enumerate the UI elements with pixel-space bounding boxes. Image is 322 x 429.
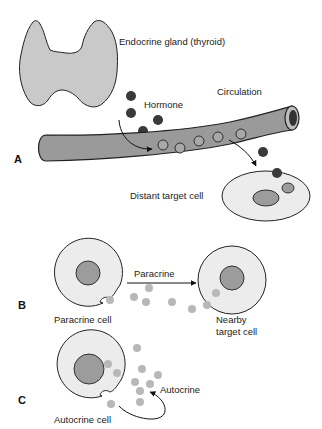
cell-signaling-diagram: Endocrine gland (thyroid) Hormone Circul… [0, 0, 322, 429]
paracrine-arrow-label: Paracrine [134, 268, 175, 279]
vessel-lumen [289, 110, 297, 126]
panel-a: Endocrine gland (thyroid) Hormone Circul… [14, 20, 310, 221]
panel-b: Paracrine B Paracrine cell Nearby target… [18, 238, 266, 337]
bound-hormone-dot [272, 168, 282, 178]
gland-label: Endocrine gland (thyroid) [119, 36, 225, 47]
circulating-hormone [158, 140, 168, 150]
circulating-hormone [194, 136, 204, 146]
thyroid-gland-shape [19, 20, 117, 106]
nearby-target-label-2: target cell [216, 326, 257, 337]
nearby-target-label-1: Nearby [216, 314, 247, 325]
hormone-label: Hormone [144, 99, 183, 110]
receptor-organelle [282, 183, 294, 193]
hormone-dot [126, 108, 136, 118]
autocrine-nucleus [74, 354, 104, 384]
circulating-hormone [175, 143, 185, 153]
autocrine-cell-label: Autocrine cell [54, 414, 111, 425]
hormone-dot [258, 147, 268, 157]
nearby-target-nucleus [220, 266, 244, 290]
circulating-hormone [236, 129, 246, 139]
panel-label-b: B [18, 299, 26, 311]
paracrine-cell-label: Paracrine cell [54, 314, 112, 325]
panel-c: Autocrine C Autocrine cell [18, 330, 200, 425]
panel-label-c: C [18, 394, 26, 406]
hormone-dot [153, 115, 163, 125]
paracrine-nucleus [76, 261, 100, 285]
autocrine-arrow [119, 392, 165, 419]
target-nucleus [253, 190, 279, 206]
distant-target-label: Distant target cell [130, 190, 203, 201]
blood-vessel [39, 106, 293, 161]
hormone-dot [126, 91, 136, 101]
circulation-label: Circulation [217, 86, 262, 97]
panel-label-a: A [14, 153, 22, 165]
circulating-hormone [213, 132, 223, 142]
autocrine-arrow-label: Autocrine [160, 384, 200, 395]
